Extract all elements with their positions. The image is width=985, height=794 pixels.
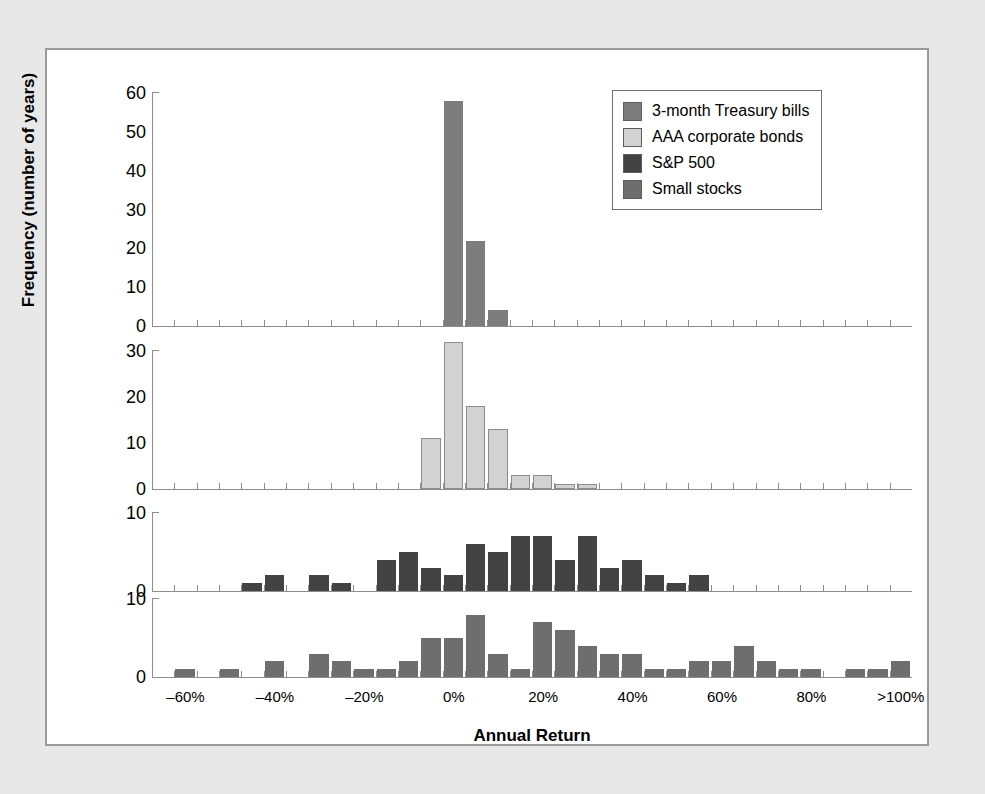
- chart-bar: [533, 475, 552, 489]
- chart-panel: 0102030: [152, 350, 912, 490]
- legend-item: 3-month Treasury bills: [623, 98, 809, 124]
- x-axis-tick: [778, 585, 779, 592]
- x-axis-tick: [241, 483, 242, 490]
- x-axis-tick: [219, 483, 220, 490]
- x-axis-tick: [174, 585, 175, 592]
- chart-bar: [578, 484, 597, 489]
- x-axis-tick: [577, 320, 578, 327]
- x-axis-title: Annual Return: [152, 726, 912, 746]
- y-tick-labels: 010: [100, 512, 146, 592]
- x-tick-label: –60%: [166, 688, 204, 705]
- chart-bar: [242, 583, 261, 591]
- y-axis-cap: [152, 92, 159, 93]
- x-tick-label: >100%: [877, 688, 924, 705]
- chart-bar: [645, 669, 664, 677]
- x-axis-tick: [800, 483, 801, 490]
- x-axis-tick: [510, 320, 511, 327]
- legend-item: S&P 500: [623, 150, 809, 176]
- x-axis-tick: [778, 483, 779, 490]
- x-axis-tick: [756, 483, 757, 490]
- y-axis-cap: [152, 512, 159, 513]
- chart-bar: [354, 669, 373, 677]
- chart-bar: [689, 575, 708, 591]
- x-axis-tick: [197, 483, 198, 490]
- x-axis-tick: [353, 483, 354, 490]
- legend-label: Small stocks: [652, 180, 742, 198]
- y-tick-label: 30: [104, 342, 146, 360]
- y-tick-label: 60: [104, 84, 146, 102]
- y-tick-label: 10: [104, 590, 146, 608]
- chart-bar: [533, 536, 552, 591]
- x-axis-tick: [823, 671, 824, 678]
- chart-bar: [600, 568, 619, 591]
- x-axis-tick: [711, 483, 712, 490]
- x-axis-tick: [800, 585, 801, 592]
- y-tick-label: 20: [104, 388, 146, 406]
- x-axis-tick: [845, 483, 846, 490]
- chart-bar: [444, 575, 463, 591]
- x-axis-tick: [599, 483, 600, 490]
- y-tick-label: 30: [104, 201, 146, 219]
- x-axis-tick: [644, 483, 645, 490]
- x-tick-label: –40%: [256, 688, 294, 705]
- x-axis-tick: [398, 320, 399, 327]
- x-axis-tick: [398, 483, 399, 490]
- x-axis-tick: [197, 671, 198, 678]
- x-axis-tick: [219, 320, 220, 327]
- x-axis-tick: [733, 585, 734, 592]
- chart-bar: [220, 669, 239, 677]
- y-axis-line: [152, 512, 153, 592]
- x-axis-tick: [241, 320, 242, 327]
- x-axis-tick: [733, 483, 734, 490]
- chart-bar: [377, 560, 396, 591]
- chart-bar: [488, 429, 507, 489]
- chart-bar: [712, 661, 731, 677]
- x-axis-tick: [711, 320, 712, 327]
- chart-bar: [421, 568, 440, 591]
- chart-bar: [466, 241, 485, 326]
- x-axis-tick: [621, 320, 622, 327]
- x-axis-tick: [308, 483, 309, 490]
- chart-panel: 010: [152, 598, 912, 678]
- chart-bar: [533, 622, 552, 677]
- y-axis-cap: [152, 350, 159, 351]
- legend-label: S&P 500: [652, 154, 715, 172]
- x-tick-label: –20%: [345, 688, 383, 705]
- chart-bar: [265, 575, 284, 591]
- chart-bar: [466, 406, 485, 489]
- x-axis-tick: [197, 320, 198, 327]
- x-axis-tick: [241, 671, 242, 678]
- chart-plot-area: Frequency (number of years) 010203040506…: [47, 50, 931, 748]
- x-axis-tick: [666, 483, 667, 490]
- chart-bar: [332, 661, 351, 677]
- chart-bar: [891, 661, 910, 677]
- x-axis-tick: [286, 671, 287, 678]
- x-axis-tick: [264, 483, 265, 490]
- chart-bar: [511, 475, 530, 489]
- legend-swatch-icon: [623, 180, 642, 199]
- legend-label: 3-month Treasury bills: [652, 102, 809, 120]
- x-axis-tick: [800, 320, 801, 327]
- y-axis-line: [152, 92, 153, 327]
- x-axis-tick: [845, 320, 846, 327]
- chart-bar: [511, 669, 530, 677]
- y-axis-line: [152, 598, 153, 678]
- x-axis-tick: [890, 585, 891, 592]
- chart-bar: [801, 669, 820, 677]
- x-axis-tick: [420, 320, 421, 327]
- legend-swatch-icon: [623, 128, 642, 147]
- chart-bar: [600, 654, 619, 677]
- x-axis-tick: [688, 320, 689, 327]
- x-tick-label: 40%: [618, 688, 648, 705]
- y-tick-label: 40: [104, 162, 146, 180]
- chart-bar: [399, 552, 418, 591]
- x-axis-tick: [733, 320, 734, 327]
- chart-bar: [555, 484, 574, 489]
- y-tick-labels: 010: [100, 598, 146, 678]
- x-axis-tick: [331, 320, 332, 327]
- chart-bar: [488, 310, 507, 326]
- chart-bar: [466, 544, 485, 591]
- chart-bar: [578, 646, 597, 677]
- figure-frame: Frequency (number of years) 010203040506…: [45, 48, 929, 746]
- chart-bar: [578, 536, 597, 591]
